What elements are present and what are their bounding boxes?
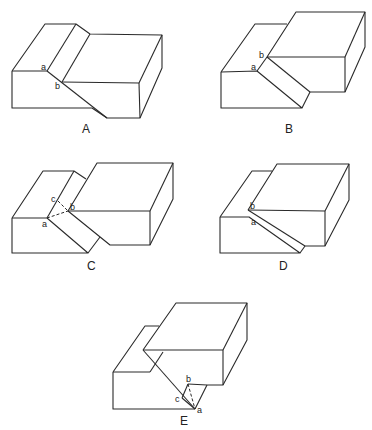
- point-label-a: a: [197, 405, 202, 415]
- figure-caption-d: D: [279, 259, 288, 273]
- figure-b: a b B: [221, 12, 365, 136]
- figure-caption-a: A: [82, 122, 90, 136]
- fault-block-diagrams: a b A a b B a b c C: [0, 0, 372, 430]
- point-label-a: a: [251, 62, 256, 72]
- figure-a: a b A: [12, 24, 162, 136]
- point-label-a: a: [41, 62, 46, 72]
- point-label-c: c: [175, 394, 180, 404]
- point-label-b: b: [250, 201, 255, 211]
- point-label-b: b: [70, 202, 75, 212]
- point-label-b: b: [55, 81, 60, 91]
- figure-e: b c a E: [113, 303, 247, 428]
- figure-d: b a D: [220, 164, 349, 273]
- figure-c: a b c C: [12, 163, 173, 273]
- figure-caption-c: C: [87, 259, 96, 273]
- point-label-b: b: [259, 50, 264, 60]
- figure-caption-e: E: [180, 414, 188, 428]
- figure-caption-b: B: [285, 122, 293, 136]
- point-label-a: a: [251, 217, 256, 227]
- point-label-b: b: [186, 374, 191, 384]
- point-label-a: a: [42, 219, 47, 229]
- point-label-c: c: [51, 194, 56, 204]
